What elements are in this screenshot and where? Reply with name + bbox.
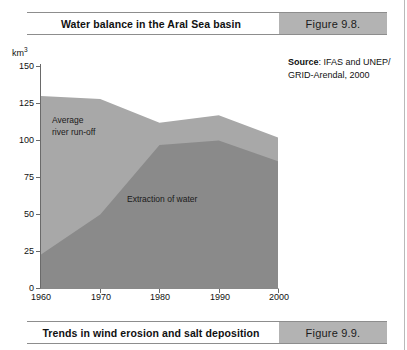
area-chart-plot (0, 44, 300, 306)
top-caption-rule-below (27, 34, 387, 35)
top-figure-number: Figure 9.8. (279, 13, 387, 34)
x-tick-1990: 1990 (210, 292, 230, 302)
page-edge-rule (404, 0, 405, 350)
x-tick-2000: 2000 (269, 292, 289, 302)
top-figure-caption: Water balance in the Aral Sea basin Figu… (27, 13, 387, 34)
source-note: Source: IFAS and UNEP/ GRID-Arendal, 200… (288, 56, 400, 81)
bottom-figure-caption: Trends in wind erosion and salt depositi… (27, 322, 387, 343)
x-tick-1980: 1980 (150, 292, 170, 302)
series-label-average-river-run-off: Average river run-off (52, 115, 95, 138)
x-tick-1960: 1960 (31, 292, 51, 302)
bottom-figure-title: Trends in wind erosion and salt depositi… (27, 322, 279, 343)
bottom-figure-number: Figure 9.9. (279, 322, 387, 343)
top-figure-title: Water balance in the Aral Sea basin (27, 13, 279, 34)
source-label: Source (288, 57, 319, 67)
bottom-caption-rule-below (27, 343, 387, 344)
figure-page: Water balance in the Aral Sea basin Figu… (0, 0, 407, 350)
x-tick-1970: 1970 (91, 292, 111, 302)
series-label-extraction-of-water: Extraction of water (127, 194, 197, 206)
chart-container: km3 150 125 100 75 50 25 0 (0, 44, 300, 306)
